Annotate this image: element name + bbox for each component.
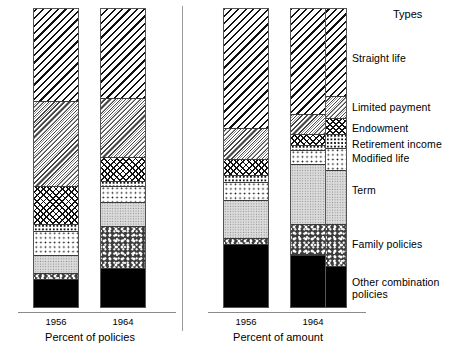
amount-1956-segment-other-combination-policies	[224, 244, 268, 307]
axis-line-left	[18, 312, 176, 313]
amount-1956-segment-straight-life	[224, 9, 268, 128]
tick-label-amount-1964: 1964	[283, 316, 343, 327]
tick-label-policies-1956: 1956	[26, 316, 86, 327]
segment-divider	[326, 148, 346, 149]
segment-divider	[34, 224, 78, 225]
legend-swatch-column	[325, 8, 347, 308]
segment-divider	[224, 128, 268, 129]
segment-divider	[224, 159, 268, 160]
legend-label-retirement-income: Retirement income	[352, 138, 442, 150]
segment-divider	[34, 273, 78, 274]
segment-divider	[101, 157, 145, 158]
segment-divider	[101, 202, 145, 203]
chart-root: 1956 1964 Percent of policies 1956 1964 …	[0, 0, 454, 353]
policies-1964-segment-endowment	[101, 157, 145, 181]
bar-policies-1956	[33, 8, 79, 308]
segment-divider	[224, 182, 268, 183]
segment-divider	[101, 186, 145, 187]
legend-swatch-endowment	[325, 118, 347, 134]
segment-divider	[224, 244, 268, 245]
legend-swatch-family-policies	[325, 224, 347, 266]
panel-caption-left: Percent of policies	[28, 331, 152, 343]
legend-swatch-other-combination-policies	[325, 266, 347, 308]
legend-label-family-policies: Family policies	[352, 238, 422, 250]
policies-1956-segment-straight-life	[34, 9, 78, 101]
bar-policies-1964	[100, 8, 146, 308]
segment-divider	[224, 175, 268, 176]
segment-divider	[101, 226, 145, 227]
segment-divider	[224, 238, 268, 239]
legend-title: Types	[393, 8, 422, 20]
legend-swatch-limited-payment	[325, 96, 347, 118]
segment-divider	[326, 134, 346, 135]
segment-divider	[34, 279, 78, 280]
legend-label-endowment: Endowment	[352, 122, 408, 134]
segment-divider	[34, 231, 78, 232]
tick-label-amount-1956: 1956	[216, 316, 276, 327]
segment-divider	[34, 186, 78, 187]
segment-divider	[101, 268, 145, 269]
policies-1964-segment-modified-life	[101, 186, 145, 202]
policies-1956-segment-retirement-income	[34, 224, 78, 231]
panel-caption-right: Percent of amount	[216, 331, 340, 343]
amount-1956-segment-limited-payment	[224, 128, 268, 159]
amount-1956-segment-modified-life	[224, 182, 268, 200]
segment-divider	[326, 224, 346, 225]
amount-1956-segment-endowment	[224, 159, 268, 175]
policies-1964-segment-straight-life	[101, 9, 145, 98]
legend-swatch-retirement-income	[325, 134, 347, 148]
legend-label-limited-payment: Limited payment	[352, 101, 431, 113]
legend-label-term: Term	[352, 184, 376, 196]
segment-divider	[326, 96, 346, 97]
segment-divider	[326, 170, 346, 171]
legend-swatch-term	[325, 170, 347, 224]
policies-1964-segment-term	[101, 202, 145, 226]
policies-1956-segment-modified-life	[34, 231, 78, 255]
segment-divider	[101, 98, 145, 99]
policies-1956-segment-endowment	[34, 186, 78, 224]
tick-label-policies-1964: 1964	[93, 316, 153, 327]
policies-1956-segment-term	[34, 255, 78, 273]
policies-1964-segment-family-policies	[101, 226, 145, 268]
legend-swatch-straight-life	[325, 8, 347, 96]
segment-divider	[326, 266, 346, 267]
legend-swatch-modified-life	[325, 148, 347, 170]
policies-1956-segment-limited-payment	[34, 101, 78, 186]
segment-divider	[34, 255, 78, 256]
policies-1964-segment-limited-payment	[101, 98, 145, 157]
legend-label-modified-life: Modified life	[352, 152, 409, 164]
segment-divider	[326, 118, 346, 119]
policies-1956-segment-other-combination-policies	[34, 279, 78, 307]
panel-divider	[182, 6, 183, 331]
legend-label-other-combination-policies: Other combination policies	[352, 276, 440, 300]
bar-amount-1956	[223, 8, 269, 308]
segment-divider	[101, 181, 145, 182]
legend-label-straight-life: Straight life	[352, 52, 406, 64]
segment-divider	[224, 200, 268, 201]
axis-line-right	[208, 312, 366, 313]
amount-1956-segment-retirement-income	[224, 175, 268, 182]
amount-1956-segment-term	[224, 200, 268, 238]
policies-1964-segment-other-combination-policies	[101, 268, 145, 307]
segment-divider	[34, 101, 78, 102]
